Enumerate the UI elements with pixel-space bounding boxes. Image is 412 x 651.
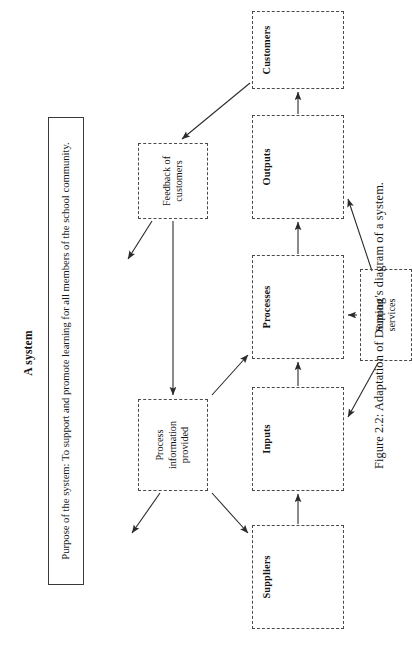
node-suppliers: Suppliers [252,525,344,629]
node-inputs-label: Inputs [261,388,274,490]
arrow-process-information-to-purpose [132,493,160,533]
arrow-feedback-to-purpose [128,221,152,259]
node-outputs: Outputs [252,115,344,219]
arrow-process-information-to-processes [212,355,248,395]
purpose-statement-text: Purpose of the system: To support and pr… [59,142,73,559]
figure-caption: Figure 2.2: Adaptation of Deming's diagr… [372,0,387,651]
node-process-information-label: Process information provided [154,421,191,469]
node-feedback-of-customers: Feedback of customers [138,143,208,219]
node-customers: Customers [252,11,344,89]
node-processes-label: Processes [261,256,274,358]
arrow-customers-to-feedback [182,83,250,139]
node-suppliers-label: Suppliers [261,526,274,628]
arrow-process-information-to-suppliers [212,493,248,533]
diagram-title: A system [22,143,34,563]
node-outputs-label: Outputs [261,116,274,218]
node-process-information: Process information provided [138,399,208,491]
node-customers-label: Customers [261,12,274,88]
node-feedback-of-customers-label: Feedback of customers [161,156,186,206]
arrow-support-services-to-outputs [348,199,372,271]
purpose-statement-box: Purpose of the system: To support and pr… [48,117,84,585]
node-processes: Processes [252,255,344,359]
node-inputs: Inputs [252,387,344,491]
